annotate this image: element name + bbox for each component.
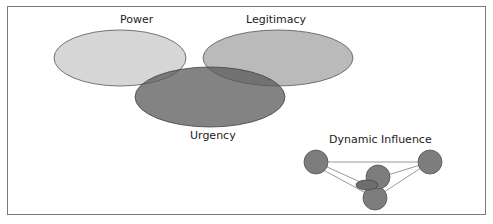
venn-diagram (0, 0, 493, 224)
urgency-label: Urgency (190, 129, 236, 142)
dynamic-influence-title: Dynamic Influence (329, 133, 432, 146)
power-label: Power (120, 13, 153, 26)
urgency-ellipse (135, 67, 285, 127)
influence-node-right (418, 150, 442, 174)
influence-node-small (356, 180, 378, 190)
influence-node-left (304, 150, 328, 174)
legitimacy-label: Legitimacy (246, 13, 306, 26)
